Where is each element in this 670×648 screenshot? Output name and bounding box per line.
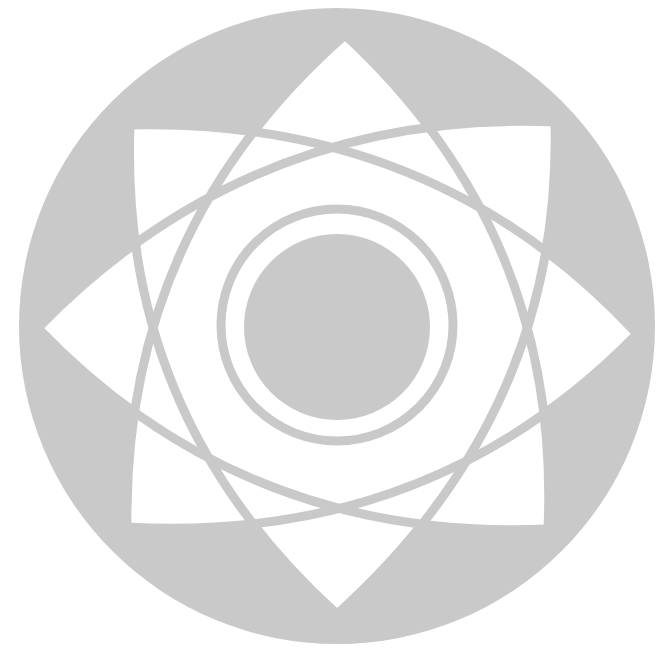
star-mandala bbox=[0, 0, 670, 648]
center-disc bbox=[244, 234, 430, 420]
